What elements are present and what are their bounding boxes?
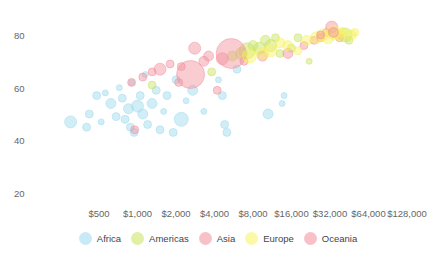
bubble[interactable] — [294, 34, 302, 42]
bubble[interactable] — [337, 27, 347, 37]
legend-item-oceania[interactable]: Oceania — [304, 232, 357, 245]
bubble[interactable] — [174, 112, 188, 126]
bubble[interactable] — [106, 99, 116, 109]
bubble[interactable] — [139, 73, 147, 81]
bubble[interactable] — [156, 126, 164, 134]
bubble[interactable] — [65, 116, 77, 128]
x-tick-label: $8,000 — [238, 208, 267, 219]
bubble[interactable] — [183, 98, 189, 104]
legend-item-africa[interactable]: Africa — [79, 232, 121, 245]
bubble[interactable] — [121, 115, 129, 123]
legend-item-europe[interactable]: Europe — [245, 232, 294, 245]
x-tick-label: $64,000 — [351, 208, 385, 219]
bubble[interactable] — [221, 121, 229, 129]
y-tick-label: 20 — [14, 188, 25, 199]
bubble[interactable] — [138, 109, 148, 119]
bubble[interactable] — [98, 119, 104, 125]
x-tick-label: $16,000 — [274, 208, 308, 219]
bubble[interactable] — [116, 85, 122, 91]
bubble[interactable] — [154, 63, 166, 75]
bubble[interactable] — [283, 41, 293, 51]
bubble[interactable] — [265, 45, 277, 57]
bubble[interactable] — [213, 86, 221, 94]
legend-item-asia[interactable]: Asia — [199, 232, 235, 245]
bubble[interactable] — [102, 90, 108, 96]
bubble[interactable] — [242, 49, 256, 63]
y-tick-label: 80 — [14, 30, 25, 41]
bubble-chart: 80604020 $500$1,000$2,000$4,000$8,000$16… — [0, 0, 440, 260]
plot-area — [0, 0, 440, 225]
bubble[interactable] — [204, 51, 214, 61]
bubble[interactable] — [317, 31, 325, 39]
bubble[interactable] — [279, 101, 285, 107]
legend-label: Oceania — [322, 233, 357, 244]
bubble[interactable] — [263, 109, 273, 119]
bubble[interactable] — [147, 99, 157, 109]
bubble[interactable] — [189, 42, 201, 54]
bubble[interactable] — [85, 110, 93, 118]
series-africa — [65, 65, 288, 136]
bubble[interactable] — [118, 94, 126, 102]
y-tick-label: 40 — [14, 135, 25, 146]
legend-swatch-icon — [304, 232, 317, 245]
bubble[interactable] — [128, 78, 136, 86]
bubble[interactable] — [328, 27, 338, 37]
bubble[interactable] — [131, 126, 139, 134]
bubble[interactable] — [306, 58, 312, 64]
bubble[interactable] — [223, 128, 231, 136]
bubble[interactable] — [294, 47, 302, 55]
legend-label: Asia — [217, 233, 235, 244]
x-tick-label: $2,000 — [161, 208, 190, 219]
bubble[interactable] — [112, 113, 120, 121]
bubble[interactable] — [216, 77, 222, 83]
bubble[interactable] — [208, 68, 216, 76]
bubble[interactable] — [281, 93, 287, 99]
legend-swatch-icon — [199, 232, 212, 245]
legend: AfricaAmericasAsiaEuropeOceania — [0, 232, 440, 245]
bubble[interactable] — [161, 108, 167, 114]
y-tick-label: 60 — [14, 82, 25, 93]
legend-label: Africa — [97, 233, 121, 244]
x-tick-label: $4,000 — [200, 208, 229, 219]
bubble[interactable] — [148, 81, 156, 89]
bubble[interactable] — [83, 123, 91, 131]
bubble[interactable] — [351, 28, 359, 36]
bubble[interactable] — [136, 92, 144, 100]
x-tick-label: $1,000 — [123, 208, 152, 219]
bubble[interactable] — [163, 92, 171, 100]
bubble[interactable] — [169, 128, 177, 136]
legend-swatch-icon — [245, 232, 258, 245]
bubble[interactable] — [166, 60, 174, 68]
bubble[interactable] — [93, 92, 101, 100]
legend-swatch-icon — [131, 232, 144, 245]
legend-label: Americas — [149, 233, 189, 244]
legend-label: Europe — [263, 233, 294, 244]
x-tick-label: $32,000 — [313, 208, 347, 219]
x-tick-label: $128,000 — [387, 208, 427, 219]
legend-swatch-icon — [79, 232, 92, 245]
bubble[interactable] — [201, 108, 207, 114]
legend-item-americas[interactable]: Americas — [131, 232, 189, 245]
bubble[interactable] — [144, 121, 152, 129]
x-tick-label: $500 — [88, 208, 109, 219]
